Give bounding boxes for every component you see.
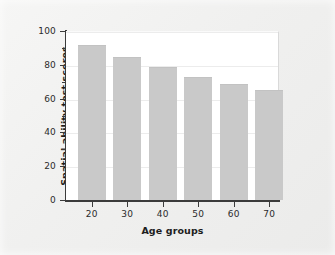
bar (184, 77, 212, 200)
x-axis-tick-label: 60 (228, 209, 240, 219)
x-axis-tick-label: 20 (86, 209, 98, 219)
y-axis-tick-minor (62, 116, 65, 117)
y-axis-tick-minor (62, 183, 65, 184)
x-axis-title: Age groups (66, 225, 279, 236)
x-axis-tick-label: 40 (157, 209, 169, 219)
x-axis-tick (198, 202, 199, 207)
y-axis-tick-label: 80 (44, 60, 56, 70)
y-axis-tick-major (60, 132, 65, 133)
bar (78, 45, 106, 200)
y-axis-tick-labels: 020406080100 (0, 31, 65, 200)
bar (113, 57, 141, 200)
x-axis-tick-labels: 203040506070 (66, 209, 279, 221)
y-axis-tick-label: 40 (44, 127, 56, 137)
x-axis-tick (163, 202, 164, 207)
y-axis-tick-major (60, 31, 65, 32)
y-axis-tick-label: 100 (38, 26, 56, 36)
y-axis-tick-minor (62, 149, 65, 150)
x-axis-tick-label: 50 (192, 209, 204, 219)
x-axis-tick-label: 70 (263, 209, 275, 219)
x-axis-tick-label: 30 (121, 209, 133, 219)
y-axis-tick-major (60, 65, 65, 66)
y-axis-tick-label: 0 (50, 195, 56, 205)
gridline (66, 32, 278, 33)
plot-area (66, 31, 279, 200)
y-axis-tick-minor (62, 48, 65, 49)
y-axis-tick-minor (62, 82, 65, 83)
bar (149, 67, 177, 201)
x-axis-tick (269, 202, 270, 207)
y-axis-tick-major (60, 166, 65, 167)
y-axis-tick-label: 60 (44, 94, 56, 104)
x-axis-ticks (66, 202, 279, 208)
x-axis-tick (234, 202, 235, 207)
figure-container: Spatial ability test scores 020406080100… (0, 0, 335, 255)
x-axis-tick (92, 202, 93, 207)
bar (255, 90, 283, 200)
x-axis-tick (127, 202, 128, 207)
y-axis-tick-major (60, 99, 65, 100)
y-axis-tick-label: 20 (44, 161, 56, 171)
y-axis-tick-major (60, 200, 65, 201)
bar (220, 84, 248, 200)
